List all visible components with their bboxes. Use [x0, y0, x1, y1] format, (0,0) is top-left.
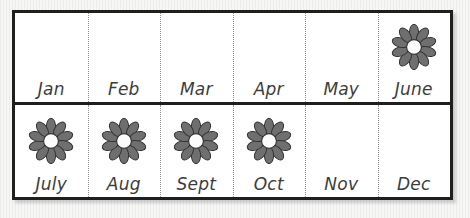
flower-icon [233, 105, 306, 176]
month-cell-jan[interactable]: Jan [15, 13, 88, 102]
month-flower-grid: Jan Feb Mar Apr May [12, 10, 453, 200]
flower-icon [233, 13, 306, 81]
flower-icon [378, 13, 451, 81]
month-cell-june[interactable]: June [378, 13, 451, 102]
month-cell-apr[interactable]: Apr [233, 13, 306, 102]
month-cell-may[interactable]: May [305, 13, 378, 102]
grid-row-first-half: Jan Feb Mar Apr May [15, 13, 450, 105]
month-cell-feb[interactable]: Feb [88, 13, 161, 102]
month-label: Aug [107, 176, 141, 193]
month-label: Nov [324, 176, 358, 193]
month-label: June [395, 81, 433, 98]
flower-icon [15, 13, 88, 81]
flower-icon [88, 105, 161, 176]
flower-icon [160, 13, 233, 81]
month-label: Apr [254, 81, 284, 98]
flower-icon [305, 105, 378, 176]
grid-row-second-half: July Aug Sept Oct Nov [15, 105, 450, 197]
flower-icon [378, 105, 451, 176]
month-cell-dec[interactable]: Dec [378, 105, 451, 197]
month-cell-july[interactable]: July [15, 105, 88, 197]
month-cell-mar[interactable]: Mar [160, 13, 233, 102]
month-cell-oct[interactable]: Oct [233, 105, 306, 197]
month-cell-sept[interactable]: Sept [160, 105, 233, 197]
month-label: Oct [254, 176, 284, 193]
month-label: Jan [38, 81, 65, 98]
flower-icon [88, 13, 161, 81]
month-label: Sept [176, 176, 216, 193]
flower-icon [160, 105, 233, 176]
month-cell-aug[interactable]: Aug [88, 105, 161, 197]
month-label: Feb [108, 81, 140, 98]
month-label: May [323, 81, 359, 98]
flower-icon [305, 13, 378, 81]
month-cell-nov[interactable]: Nov [305, 105, 378, 197]
month-label: Mar [180, 81, 213, 98]
flower-icon [15, 105, 88, 176]
month-label: Dec [397, 176, 431, 193]
month-label: July [36, 176, 67, 193]
